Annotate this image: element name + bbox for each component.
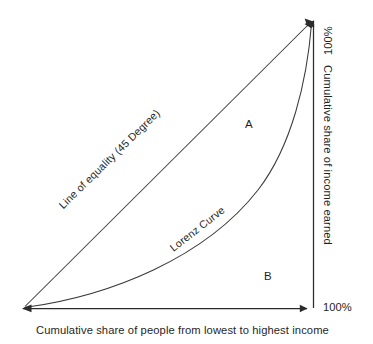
- area-a-label: A: [245, 119, 253, 131]
- lorenz-diagram-svg: [0, 0, 373, 344]
- y-axis-title: Cumulative share of income earned: [322, 65, 333, 245]
- y-axis-max-label: 100%: [323, 26, 334, 55]
- x-axis-title: Cumulative share of people from lowest t…: [36, 325, 329, 336]
- lorenz-curve-path: [25, 24, 312, 308]
- x-axis-max-label: 100%: [323, 302, 352, 313]
- area-b-label: B: [264, 271, 272, 283]
- origin-arrowhead: [22, 305, 32, 313]
- line-of-equality: [25, 23, 310, 307]
- lorenz-curve-figure: Cumulative share of people from lowest t…: [0, 0, 373, 344]
